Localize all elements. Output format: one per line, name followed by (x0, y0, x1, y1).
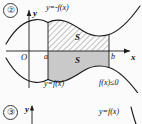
curve-label-negative-f: y=-f(x) (46, 4, 69, 12)
y-axis-label-panel2: y (33, 9, 37, 18)
curve-label-f-panel2: y=f(x) (44, 80, 64, 88)
condition-label: f(x)≤0 (99, 79, 119, 87)
region-label-filled-S: S (75, 56, 80, 65)
math-figure-panel: ② y x O a b y=-f(x) y=f(x) S S f(x)≤0 ③ … (0, 0, 142, 124)
y-axis-label-panel3: y (25, 105, 29, 114)
origin-label: O (21, 53, 27, 62)
y-axis-arrow (27, 10, 32, 16)
figure-canvas (0, 0, 142, 124)
curve-label-f-panel3: y=f(x) (99, 108, 119, 116)
x-axis-arrow (124, 49, 130, 54)
x-axis-label-panel2: x (131, 53, 136, 62)
tick-label-b: b (111, 53, 115, 61)
tick-label-a: a (44, 53, 48, 61)
item-number-3: ③ (3, 105, 18, 120)
panel3-curve-fragment (131, 107, 136, 124)
panel3-y-axis-arrow (30, 105, 34, 111)
region-label-hatched-S: S (75, 33, 80, 42)
item-number-2: ② (3, 3, 18, 18)
